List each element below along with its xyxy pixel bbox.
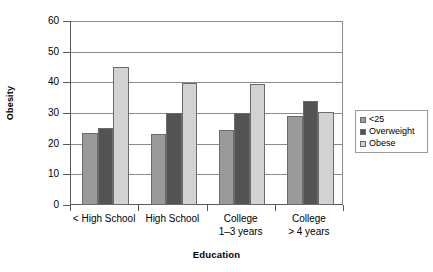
- bar: [182, 83, 198, 205]
- x-tick-4: [343, 205, 344, 211]
- y-tick-60: [63, 21, 70, 22]
- bars-layer: [70, 21, 343, 205]
- bar: [166, 113, 182, 205]
- x-tick-2: [207, 205, 208, 211]
- y-tick-label-60: 60: [30, 16, 59, 26]
- y-tick-label-20: 20: [30, 139, 59, 149]
- bar: [151, 134, 167, 205]
- y-tick-20: [63, 144, 70, 145]
- bar: [219, 130, 235, 205]
- legend-swatch-icon: [360, 117, 366, 123]
- bar: [82, 133, 98, 205]
- legend-item: <25: [360, 114, 424, 125]
- y-axis-title: Obesity: [5, 73, 15, 133]
- legend-item: Obese: [360, 138, 424, 149]
- legend-item-label: Obese: [369, 139, 396, 148]
- x-category-label-line2: > 4 years: [263, 226, 355, 239]
- y-tick-40: [63, 82, 70, 83]
- x-category-label: College> 4 years: [263, 213, 355, 238]
- chart-legend: <25OverweightObese: [355, 110, 428, 153]
- bar: [303, 101, 319, 205]
- bar: [318, 112, 334, 205]
- x-tick-3: [275, 205, 276, 211]
- bar-chart: Obesity 0102030405060 < High SchoolHigh …: [0, 0, 433, 272]
- legend-item: Overweight: [360, 126, 424, 137]
- bar: [234, 113, 250, 205]
- y-tick-label-40: 40: [30, 77, 59, 87]
- bar: [98, 128, 114, 205]
- bar: [250, 84, 266, 205]
- y-tick-50: [63, 52, 70, 53]
- x-tick-1: [138, 205, 139, 211]
- bar: [287, 116, 303, 205]
- legend-swatch-icon: [360, 141, 366, 147]
- y-tick-label-10: 10: [30, 169, 59, 179]
- legend-item-label: Overweight: [369, 127, 415, 136]
- y-tick-10: [63, 174, 70, 175]
- y-tick-label-50: 50: [30, 47, 59, 57]
- y-tick-label-30: 30: [30, 108, 59, 118]
- x-tick-0: [70, 205, 71, 211]
- y-tick-0: [63, 205, 70, 206]
- bar: [113, 67, 129, 205]
- y-tick-label-0: 0: [30, 200, 59, 210]
- x-category-label-line1: College: [292, 213, 326, 224]
- x-category-label-line1: High School: [145, 213, 199, 224]
- legend-item-label: <25: [369, 115, 384, 124]
- legend-swatch-icon: [360, 129, 366, 135]
- y-tick-30: [63, 113, 70, 114]
- x-axis-title: Education: [0, 249, 433, 260]
- x-category-label-line1: College: [224, 213, 258, 224]
